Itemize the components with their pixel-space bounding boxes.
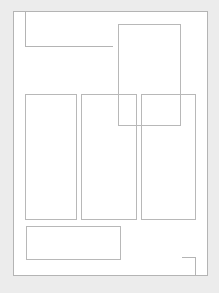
- column-1: [25, 94, 77, 220]
- footer-box: [26, 226, 121, 260]
- corner-mark-vertical: [195, 257, 196, 276]
- corner-mark-horizontal: [182, 257, 196, 258]
- header-box-left-edge: [25, 11, 26, 47]
- header-box-bottom-edge: [25, 46, 113, 47]
- floating-panel: [118, 24, 181, 126]
